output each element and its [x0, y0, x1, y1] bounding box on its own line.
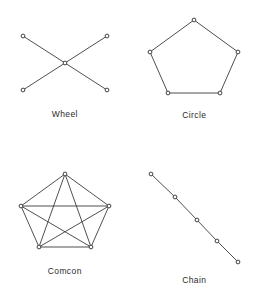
graph-comcon [15, 168, 115, 253]
graph-edge [65, 174, 109, 206]
graph-circle [144, 14, 244, 99]
graph-node [236, 50, 240, 54]
graph-node [218, 91, 222, 95]
graph-node [148, 50, 152, 54]
topology-figure-grid: Wheel Circle Comcon Chain [0, 0, 259, 308]
graph-edge [23, 36, 65, 63]
graph-edge [150, 52, 168, 93]
panel-wheel: Wheel [0, 0, 130, 154]
graph-node [63, 61, 67, 65]
graph-edge [65, 174, 91, 247]
graph-edge [220, 52, 238, 93]
graph-edge [150, 20, 194, 52]
graph-node [21, 88, 25, 92]
graph-node [215, 239, 219, 243]
graph-node [173, 195, 177, 199]
panel-label-wheel: Wheel [52, 110, 78, 119]
panel-circle: Circle [130, 0, 260, 154]
panel-chain: Chain [130, 154, 260, 308]
graph-edge [39, 206, 109, 247]
graph-edge [65, 36, 107, 63]
graph-edge [175, 197, 197, 220]
graph-edge [151, 174, 175, 197]
panel-label-comcon: Comcon [48, 267, 82, 276]
graph-edge [194, 20, 238, 52]
graph-edge [65, 63, 107, 90]
graph-edge [197, 220, 217, 241]
graph-edge [21, 174, 65, 206]
graph-node [63, 172, 67, 176]
panel-label-circle: Circle [182, 111, 206, 120]
graph-edge [39, 174, 65, 247]
graph-node [149, 172, 153, 176]
graph-chain [144, 168, 244, 268]
panel-comcon: Comcon [0, 154, 130, 308]
graph-node [195, 218, 199, 222]
graph-edge [21, 206, 39, 247]
graph-node [105, 88, 109, 92]
graph-edge [23, 63, 65, 90]
graph-node [166, 91, 170, 95]
graph-node [21, 34, 25, 38]
graph-node [105, 34, 109, 38]
graph-edge [21, 206, 91, 247]
graph-edge [217, 241, 238, 262]
graph-node [89, 245, 93, 249]
graph-node [19, 204, 23, 208]
graph-node [107, 204, 111, 208]
graph-node [192, 18, 196, 22]
graph-wheel [15, 28, 115, 98]
graph-node [37, 245, 41, 249]
graph-edge [91, 206, 109, 247]
panel-label-chain: Chain [182, 276, 206, 285]
graph-node [236, 260, 240, 264]
